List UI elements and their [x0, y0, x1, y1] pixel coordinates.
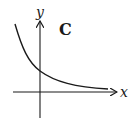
x-axis-label: x	[120, 84, 128, 100]
y-axis-label: y	[35, 4, 45, 20]
panel-label: C	[59, 20, 72, 39]
graph-canvas: y x C	[0, 0, 132, 124]
